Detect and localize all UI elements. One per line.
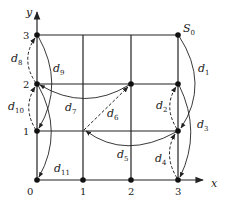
- y-tick-3: 3: [23, 30, 29, 41]
- y-tick-2: 2: [23, 79, 29, 90]
- node-3-1: [175, 128, 181, 134]
- label-d4: d4: [155, 152, 167, 167]
- x-tick-2: 2: [128, 186, 134, 197]
- x-tick-3: 3: [175, 186, 181, 197]
- node-0-2: [34, 81, 40, 87]
- label-d9: d9: [53, 62, 65, 77]
- label-d11: d11: [54, 162, 70, 177]
- label-d8: d8: [11, 52, 23, 67]
- x-axis-label: x: [211, 177, 218, 190]
- node-1-0: [80, 177, 86, 183]
- label-d1: d1: [198, 62, 210, 77]
- node-3-0: [175, 177, 181, 183]
- label-d10: d10: [8, 100, 24, 115]
- y-axis-label: y: [25, 6, 33, 19]
- edge-labels: d1 d2 d3 d4 d5 d6 d7 d8 d9 d10 d11: [8, 52, 210, 177]
- y-tick-1: 1: [23, 126, 29, 137]
- node-0-1: [34, 128, 40, 134]
- start-label: S0: [183, 22, 195, 37]
- grid-path-diagram: x y 0 1 2 3 1 2 3: [0, 0, 229, 202]
- node-0-0: [34, 177, 40, 183]
- edge-d10: [29, 87, 36, 130]
- edge-d1: [179, 36, 195, 128]
- edge-d7: [40, 85, 129, 99]
- x-tick-0: 0: [27, 186, 33, 197]
- label-d5: d5: [117, 148, 129, 163]
- label-d7: d7: [65, 101, 77, 116]
- x-tick-1: 1: [80, 186, 86, 197]
- edge-d4: [169, 134, 177, 178]
- label-d3: d3: [197, 118, 209, 133]
- node-start-S0: [175, 32, 181, 38]
- edge-d8: [28, 38, 36, 83]
- edge-d2: [170, 87, 177, 129]
- label-d2: d2: [156, 99, 168, 114]
- edge-d6: [84, 87, 128, 130]
- node-2-2: [128, 81, 134, 87]
- label-d6: d6: [107, 107, 119, 122]
- node-0-3: [34, 32, 40, 38]
- node-2-0: [128, 177, 134, 183]
- node-3-2: [175, 81, 181, 87]
